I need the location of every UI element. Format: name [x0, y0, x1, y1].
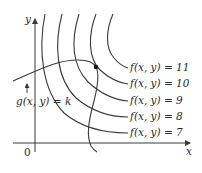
tangent-point	[94, 65, 98, 69]
level-curve-9	[74, 14, 128, 101]
origin-label: 0	[24, 146, 31, 158]
y-axis-label: y	[24, 13, 32, 25]
level-label-7: f(x, y) = 7	[129, 126, 183, 138]
level-label-11: f(x, y) = 11	[129, 61, 189, 73]
level-curve-11	[108, 14, 129, 68]
x-axis-label: x	[186, 145, 192, 157]
level-label-10: f(x, y) = 10	[129, 77, 190, 89]
level-label-8: f(x, y) = 8	[129, 110, 183, 122]
lagrange-level-curves-diagram: y x 0 g(x, y) = k f(x, y) = 11 f(x, y) =…	[0, 0, 202, 173]
level-curve-7	[42, 14, 128, 133]
level-label-9: f(x, y) = 9	[129, 94, 183, 106]
constraint-label: g(x, y) = k	[16, 95, 71, 107]
